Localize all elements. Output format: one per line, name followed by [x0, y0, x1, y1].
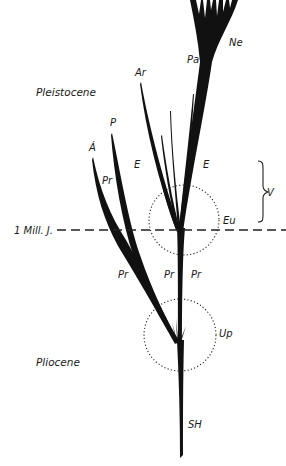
main-stem-upper: [177, 228, 185, 345]
label-pr-lower-right: Pr: [191, 269, 202, 280]
label-e-right: E: [203, 159, 210, 170]
label-e-left: E: [134, 159, 141, 170]
stem-sh: [177, 340, 184, 458]
label-pr-upper: Pr: [102, 175, 113, 186]
label-sh: SH: [188, 419, 202, 430]
label-ne: Ne: [229, 37, 243, 48]
label-pr-lower-left: Pr: [118, 269, 129, 280]
label-pa: Pa: [187, 54, 199, 65]
era-label-pleistocene: Pleistocene: [36, 86, 96, 98]
phylogeny-diagram: Pleistocene Pliocene 1 Mill. J. Ne Pa Ar…: [0, 0, 286, 466]
branch-ne: [179, 0, 238, 232]
era-label-pliocene: Pliocene: [36, 356, 80, 368]
label-ar: Ar: [134, 67, 147, 78]
label-node-up: Up: [219, 328, 233, 339]
label-p: P: [110, 117, 117, 128]
bracket-label-v: V: [267, 187, 275, 198]
label-a: Á: [88, 141, 96, 153]
label-node-eu: Eu: [223, 215, 236, 226]
time-marker-label: 1 Mill. J.: [14, 225, 53, 236]
label-pr-lower-mid: Pr: [164, 269, 175, 280]
